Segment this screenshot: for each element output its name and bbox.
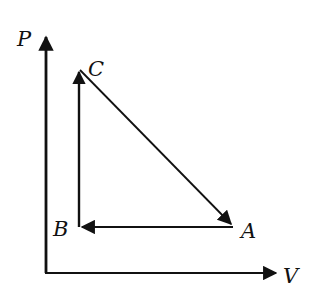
process-c-to-a [80,70,231,224]
point-labels: A B C [52,57,256,243]
point-b-label: B [52,217,68,241]
p-axis-label: P [16,27,32,51]
axes: P V [16,27,300,288]
pv-diagram: P V A B C [0,0,321,302]
process-cycle [79,70,233,227]
point-a-label: A [239,219,256,243]
v-axis-label: V [283,264,300,288]
point-c-label: C [88,57,104,81]
